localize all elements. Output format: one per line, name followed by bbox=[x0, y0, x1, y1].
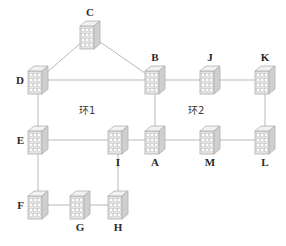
node-c[interactable]: C bbox=[79, 20, 101, 50]
node-l[interactable]: L bbox=[254, 125, 276, 155]
switch-icon bbox=[144, 65, 166, 95]
node-j[interactable]: J bbox=[199, 65, 221, 95]
node-d[interactable]: D bbox=[27, 65, 49, 95]
switch-icon bbox=[27, 190, 49, 220]
node-label-g: G bbox=[76, 222, 85, 233]
switch-icon bbox=[144, 125, 166, 155]
annotation-ring2: 环2 bbox=[188, 105, 204, 116]
node-b[interactable]: B bbox=[144, 65, 166, 95]
switch-icon bbox=[199, 65, 221, 95]
node-label-k: K bbox=[261, 52, 270, 63]
node-label-f: F bbox=[17, 200, 24, 211]
node-e[interactable]: E bbox=[27, 125, 49, 155]
node-label-l: L bbox=[261, 157, 268, 168]
switch-icon bbox=[27, 65, 49, 95]
switch-icon bbox=[27, 125, 49, 155]
node-g[interactable]: G bbox=[69, 190, 91, 220]
node-label-m: M bbox=[205, 157, 215, 168]
switch-icon bbox=[254, 65, 276, 95]
node-label-j: J bbox=[207, 52, 213, 63]
node-label-e: E bbox=[17, 135, 24, 146]
switch-icon bbox=[69, 190, 91, 220]
node-h[interactable]: H bbox=[107, 190, 129, 220]
node-label-a: A bbox=[151, 157, 159, 168]
node-m[interactable]: M bbox=[199, 125, 221, 155]
node-label-c: C bbox=[86, 7, 94, 18]
node-k[interactable]: K bbox=[254, 65, 276, 95]
switch-icon bbox=[107, 190, 129, 220]
switch-icon bbox=[79, 20, 101, 50]
switch-icon bbox=[107, 125, 129, 155]
network-topology-diagram: CDBJKEIAMLFGH 环1环2 bbox=[0, 0, 286, 246]
node-label-d: D bbox=[16, 75, 24, 86]
node-label-i: I bbox=[116, 157, 120, 168]
switch-icon bbox=[199, 125, 221, 155]
node-label-b: B bbox=[151, 52, 158, 63]
node-label-h: H bbox=[114, 222, 123, 233]
node-f[interactable]: F bbox=[27, 190, 49, 220]
node-i[interactable]: I bbox=[107, 125, 129, 155]
annotation-ring1: 环1 bbox=[79, 105, 95, 116]
node-a[interactable]: A bbox=[144, 125, 166, 155]
switch-icon bbox=[254, 125, 276, 155]
